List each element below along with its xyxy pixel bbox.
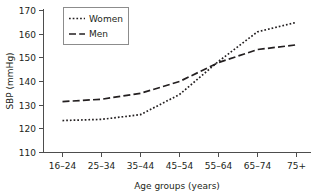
- x-axis-tick-labels: 16–24 25–34 35–44 45–54 55–64 65–74 75+: [49, 161, 306, 171]
- x-tick-label-1: 25–34: [88, 161, 116, 171]
- x-tick-label-3: 45–54: [166, 161, 194, 171]
- x-tick-label-2: 35–44: [127, 161, 155, 171]
- series-line-men: [63, 45, 297, 102]
- chart-legend: Women Men: [64, 8, 129, 45]
- y-tick-label-140: 140: [19, 77, 36, 87]
- y-tick-label-120: 120: [19, 124, 36, 134]
- sbp-by-age-line-chart: 170 160 150 140 130 120 110 16–24 25–34 …: [0, 0, 316, 195]
- chart-canvas: 170 160 150 140 130 120 110 16–24 25–34 …: [0, 0, 316, 195]
- y-axis-ticks: [39, 11, 44, 153]
- x-tick-label-6: 75+: [287, 161, 306, 171]
- x-axis-title: Age groups (years): [134, 181, 220, 191]
- y-tick-label-130: 130: [19, 101, 36, 111]
- y-tick-label-110: 110: [19, 148, 36, 158]
- y-tick-label-170: 170: [19, 6, 36, 16]
- x-tick-label-5: 65–74: [244, 161, 272, 171]
- legend-label-men: Men: [89, 29, 108, 39]
- y-axis-title: SBP (mmHg): [5, 52, 15, 109]
- x-axis-ticks: [63, 153, 297, 158]
- x-tick-label-0: 16–24: [49, 161, 77, 171]
- y-axis-tick-labels: 170 160 150 140 130 120 110: [19, 6, 36, 158]
- y-tick-label-160: 160: [19, 30, 36, 40]
- legend-label-women: Women: [89, 14, 123, 24]
- x-tick-label-4: 55–64: [205, 161, 233, 171]
- y-tick-label-150: 150: [19, 53, 36, 63]
